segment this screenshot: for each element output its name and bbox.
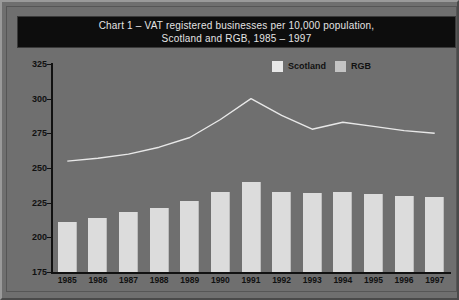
x-axis-line bbox=[51, 272, 451, 274]
plot-area bbox=[52, 64, 450, 272]
chart-inner-panel: Chart 1 – VAT registered businesses per … bbox=[6, 6, 457, 292]
bar-scotland-1997 bbox=[425, 197, 444, 272]
y-axis-tick-mark bbox=[47, 203, 52, 204]
bar-scotland-1985 bbox=[58, 222, 77, 272]
bar-scotland-1988 bbox=[150, 208, 169, 272]
y-axis-tick-label: 325 bbox=[7, 59, 47, 69]
x-axis-tick-label: 1993 bbox=[297, 275, 327, 285]
x-axis-tick-label: 1991 bbox=[236, 275, 266, 285]
x-axis-tick-label: 1992 bbox=[267, 275, 297, 285]
x-axis-tick-label: 1997 bbox=[420, 275, 450, 285]
bar-scotland-1994 bbox=[333, 192, 352, 272]
bar-scotland-1996 bbox=[395, 196, 414, 272]
y-axis-tick-mark bbox=[47, 272, 52, 273]
y-axis-tick-label: 300 bbox=[7, 94, 47, 104]
x-axis-tick-label: 1990 bbox=[205, 275, 235, 285]
bar-scotland-1992 bbox=[272, 192, 291, 272]
bar-scotland-1991 bbox=[242, 182, 261, 272]
y-axis-tick-label: 275 bbox=[7, 128, 47, 138]
x-axis-tick-label: 1988 bbox=[144, 275, 174, 285]
chart-title-banner: Chart 1 – VAT registered businesses per … bbox=[17, 16, 456, 48]
y-axis-tick-label: 200 bbox=[7, 232, 47, 242]
y-axis-tick-mark bbox=[47, 237, 52, 238]
bar-scotland-1989 bbox=[180, 201, 199, 272]
y-axis-tick-label: 250 bbox=[7, 163, 47, 173]
x-axis-tick-label: 1986 bbox=[83, 275, 113, 285]
bar-scotland-1993 bbox=[303, 193, 322, 272]
chart-title-line-1: Chart 1 – VAT registered businesses per … bbox=[99, 19, 375, 32]
bar-scotland-1987 bbox=[119, 212, 138, 272]
y-axis-tick-label: 175 bbox=[7, 267, 47, 277]
x-axis-tick-label: 1995 bbox=[358, 275, 388, 285]
rgb-line-path bbox=[67, 99, 434, 161]
x-axis-tick-label: 1985 bbox=[52, 275, 82, 285]
chart-title-line-2: Scotland and RGB, 1985 – 1997 bbox=[162, 32, 312, 45]
bar-scotland-1995 bbox=[364, 194, 383, 272]
x-axis-tick-label: 1994 bbox=[328, 275, 358, 285]
x-axis-tick-label: 1989 bbox=[175, 275, 205, 285]
y-axis-tick-mark bbox=[47, 168, 52, 169]
bar-scotland-1990 bbox=[211, 192, 230, 272]
x-axis-tick-label: 1987 bbox=[114, 275, 144, 285]
y-axis-tick-mark bbox=[47, 133, 52, 134]
y-axis-tick-mark bbox=[47, 64, 52, 65]
y-axis-labels: 175200225250275300325 bbox=[7, 7, 47, 300]
chart-frame: Chart 1 – VAT registered businesses per … bbox=[0, 0, 459, 300]
y-axis-tick-label: 225 bbox=[7, 198, 47, 208]
bar-scotland-1986 bbox=[88, 218, 107, 272]
x-axis-tick-label: 1996 bbox=[389, 275, 419, 285]
y-axis-tick-mark bbox=[47, 99, 52, 100]
x-axis-labels: 1985198619871988198919901991199219931994… bbox=[52, 275, 450, 289]
